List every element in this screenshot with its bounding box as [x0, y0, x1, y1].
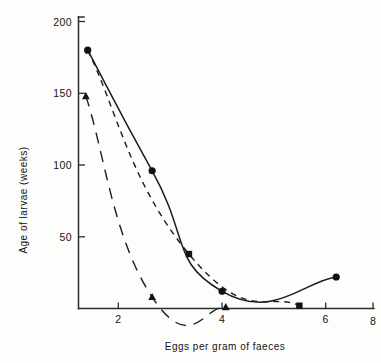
- series-solid-curve: [88, 50, 336, 302]
- data-point-circle: [84, 47, 91, 54]
- y-tick-label-200: 200: [53, 16, 72, 28]
- data-point-square: [296, 303, 302, 309]
- chart-figure: 200 150 100 50 Age of larvae (weeks) 2 4…: [0, 0, 381, 363]
- x-tick-label-4: 4: [219, 313, 225, 325]
- y-tick-label-50: 50: [60, 231, 72, 243]
- data-point-circle: [149, 167, 156, 174]
- x-tick-label-2: 2: [115, 313, 121, 325]
- y-axis-title: Age of larvae (weeks): [18, 146, 29, 253]
- series-long-dashed-curve: [86, 96, 226, 325]
- data-point-triangle: [148, 293, 156, 300]
- marker-layer: [82, 47, 340, 311]
- y-tick-label-150: 150: [53, 87, 72, 99]
- data-point-circle: [333, 273, 340, 280]
- x-axis-title: Eggs per gram of faeces: [165, 341, 285, 352]
- data-point-triangle: [222, 303, 230, 310]
- line-chart: 200 150 100 50 Age of larvae (weeks) 2 4…: [0, 0, 381, 363]
- curve-layer: [86, 50, 336, 325]
- data-point-square: [186, 251, 192, 257]
- y-tick-label-100: 100: [53, 159, 72, 171]
- x-tick-label-6: 6: [323, 313, 329, 325]
- data-point-circle: [218, 288, 225, 295]
- x-tick-label-8: 8: [370, 315, 376, 327]
